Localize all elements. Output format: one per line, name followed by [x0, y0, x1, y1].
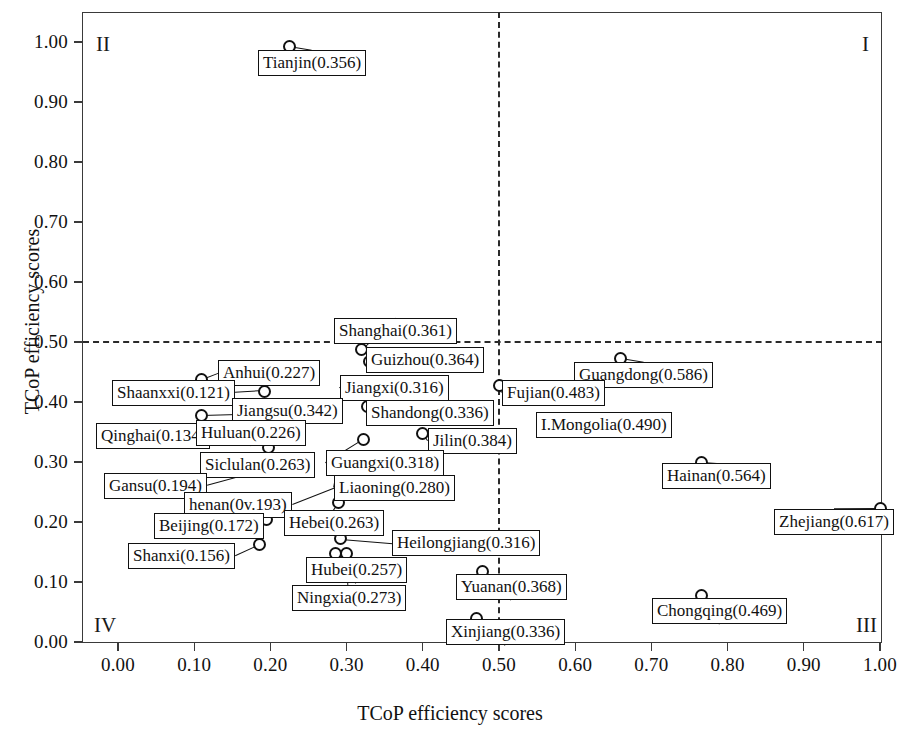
- data-point-label: Liaoning(0.280): [334, 475, 455, 501]
- data-point-label: Yuanan(0.368): [456, 574, 567, 600]
- data-point-label: Hebei(0.263): [284, 510, 384, 536]
- data-point-label: I.Mongolia(0.490): [536, 412, 672, 438]
- data-point-label: Siclulan(0.263): [200, 452, 315, 478]
- x-axis-tick-label: 0.00: [78, 654, 158, 676]
- x-axis-title: TCoP efficiency scores: [0, 702, 900, 725]
- x-axis-tick-label: 0.60: [535, 654, 615, 676]
- data-point-label: Jiangxi(0.316): [340, 375, 449, 401]
- y-axis-tick: [74, 221, 82, 222]
- data-point-label: Shandong(0.336): [366, 400, 494, 426]
- data-point-label: Chongqing(0.469): [652, 598, 787, 624]
- y-axis-tick: [74, 41, 82, 42]
- data-point-label: Hubei(0.257): [306, 557, 407, 583]
- y-axis-tick: [74, 401, 82, 402]
- x-axis-tick: [879, 643, 880, 651]
- y-axis-tick: [74, 281, 82, 282]
- x-axis-tick: [575, 643, 576, 651]
- y-axis-tick: [74, 521, 82, 522]
- data-point-label: Guangxi(0.318): [326, 450, 444, 476]
- data-point-label: Heilongjiang(0.316): [392, 530, 540, 556]
- data-point-label: Tianjin(0.356): [258, 50, 366, 76]
- y-axis-tick: [74, 161, 82, 162]
- quadrant-label-II: II: [96, 32, 110, 57]
- data-point-label: Shaanxxi(0.121): [112, 380, 235, 406]
- x-axis-tick: [422, 643, 423, 651]
- x-axis-tick: [803, 643, 804, 651]
- data-point-label: Shanxi(0.156): [128, 543, 235, 569]
- y-axis-tick: [74, 581, 82, 582]
- x-axis-tick-label: 0.20: [230, 654, 310, 676]
- x-axis-tick-label: 0.30: [307, 654, 387, 676]
- data-point-label: Fujian(0.483): [502, 380, 605, 406]
- x-axis-tick-label: 0.70: [611, 654, 691, 676]
- data-point-label: Huluan(0.226): [196, 420, 306, 446]
- x-axis-tick: [727, 643, 728, 651]
- x-axis-tick-label: 0.10: [154, 654, 234, 676]
- x-axis-tick: [117, 643, 118, 651]
- data-point-label: Qinghai(0.134): [96, 423, 210, 449]
- x-axis-tick-label: 0.80: [688, 654, 768, 676]
- x-axis-tick-label: 0.50: [459, 654, 539, 676]
- y-axis-tick-label: 0.00: [0, 631, 68, 653]
- data-point-label: Hainan(0.564): [662, 463, 771, 489]
- quadrant-label-III: III: [856, 613, 877, 638]
- data-point-label: Ningxia(0.273): [292, 585, 406, 611]
- y-axis-tick: [74, 101, 82, 102]
- scatter-chart-root: II I IV III 0.000.100.200.300.400.500.60…: [0, 0, 900, 743]
- data-point-marker[interactable]: [258, 385, 271, 398]
- x-axis-tick-label: 1.00: [840, 654, 900, 676]
- y-axis-title: TCoP efficiency scores: [21, 42, 44, 602]
- data-point-label: Xinjiang(0.336): [446, 619, 565, 645]
- x-axis-tick: [270, 643, 271, 651]
- x-axis-tick-label: 0.90: [764, 654, 844, 676]
- x-axis-tick: [346, 643, 347, 651]
- x-axis-tick-label: 0.40: [383, 654, 463, 676]
- quadrant-label-I: I: [862, 32, 869, 57]
- y-axis-tick: [74, 461, 82, 462]
- horizontal-reference-line: [83, 341, 882, 343]
- y-axis-tick: [74, 341, 82, 342]
- y-axis-tick: [74, 641, 82, 642]
- x-axis-tick: [651, 643, 652, 651]
- data-point-label: Beijing(0.172): [154, 513, 264, 539]
- quadrant-label-IV: IV: [94, 613, 116, 638]
- data-point-label: Shanghai(0.361): [334, 318, 457, 344]
- x-axis-tick: [194, 643, 195, 651]
- data-point-label: Zhejiang(0.617): [774, 509, 894, 535]
- data-point-label: Guizhou(0.364): [366, 347, 484, 373]
